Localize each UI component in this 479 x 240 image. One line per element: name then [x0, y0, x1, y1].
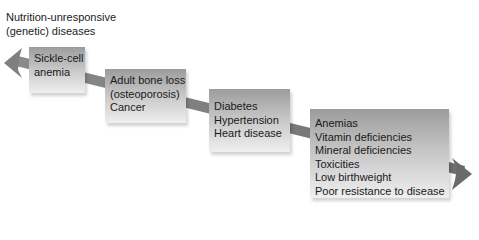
box-line: Hypertension: [214, 114, 285, 128]
box-line: Cancer: [110, 101, 181, 115]
box-line: (osteoporosis): [110, 88, 181, 102]
box-chronic-diseases: Diabetes Hypertension Heart disease: [209, 89, 290, 152]
box-line: Anemias: [315, 117, 444, 131]
box-line: Low birthweight: [315, 171, 444, 185]
box-line: Heart disease: [214, 127, 285, 141]
box-bone-loss-cancer: Adult bone loss (osteoporosis) Cancer: [105, 69, 186, 123]
box-line: Adult bone loss: [110, 74, 181, 88]
box-line: anemia: [34, 66, 80, 80]
box-sickle-cell: Sickle-cell anemia: [29, 47, 85, 93]
box-line: Mineral deficiencies: [315, 144, 444, 158]
box-line: Toxicities: [315, 158, 444, 172]
box-line: Poor resistance to disease: [315, 185, 444, 199]
box-line: Sickle-cell: [34, 52, 80, 66]
box-line: Vitamin deficiencies: [315, 131, 444, 145]
box-nutrition-responsive: Anemias Vitamin deficiencies Mineral def…: [310, 109, 449, 198]
box-line: Diabetes: [214, 100, 285, 114]
